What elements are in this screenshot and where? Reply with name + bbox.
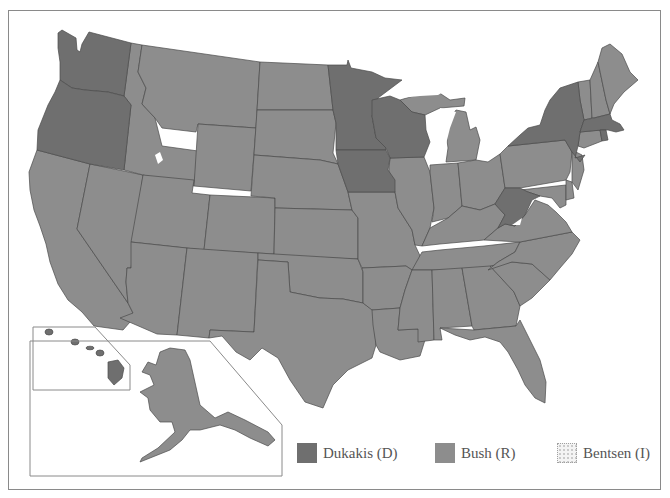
legend-item-dukakis: Dukakis (D) [297,440,398,466]
state-hi-kauai [45,329,53,335]
bush-swatch [435,443,455,463]
state-nd [257,62,333,110]
state-co [204,195,275,254]
state-hi-molokai [86,346,94,350]
state-fl [440,320,546,403]
state-ks [274,208,358,259]
state-ct [578,130,602,148]
state-wy [194,124,256,191]
legend-label-dukakis: Dukakis (D) [323,445,398,462]
legend-label-bentsen: Bentsen (I) [583,445,650,462]
state-mt [138,45,260,132]
state-hi-maui [96,350,104,356]
legend-label-bush: Bush (R) [461,445,516,462]
state-pa [500,140,572,188]
state-hi-oahu [71,339,79,345]
state-nm [177,248,258,338]
bentsen-swatch [557,443,577,463]
us-election-map [0,0,670,498]
legend-item-bentsen: Bentsen (I) [557,440,650,466]
state-hi-big-island [108,360,124,385]
state-ak [140,348,275,462]
legend-item-bush: Bush (R) [435,440,516,466]
dukakis-swatch [297,443,317,463]
